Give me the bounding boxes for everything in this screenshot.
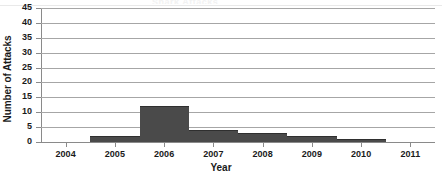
y-tick-label-10: 10 — [0, 107, 32, 116]
bar-2007 — [189, 130, 238, 142]
x-tick-label-2010: 2010 — [338, 149, 384, 159]
bar-2008 — [238, 133, 287, 142]
y-tick-label-0: 0 — [0, 137, 32, 146]
x-tick-label-2007: 2007 — [190, 149, 236, 159]
gridline-20 — [41, 82, 435, 83]
gridline-25 — [41, 68, 435, 69]
gridline-5 — [41, 127, 435, 128]
x-tick-2009 — [312, 142, 313, 147]
gridline-10 — [41, 112, 435, 113]
y-tick-label-20: 20 — [0, 77, 32, 86]
top-divider — [0, 5, 442, 6]
x-tick-label-2004: 2004 — [43, 149, 89, 159]
x-tick-label-2011: 2011 — [387, 149, 433, 159]
x-tick-2004 — [66, 142, 67, 147]
y-tick-label-25: 25 — [0, 63, 32, 72]
chart-figure: Shark Attacks Number of Attacks 45403530… — [0, 0, 442, 178]
y-tick-label-15: 15 — [0, 92, 32, 101]
x-axis-title: Year — [0, 162, 442, 173]
x-tick-label-2005: 2005 — [92, 149, 138, 159]
bar-2006 — [140, 106, 189, 142]
y-tick-label-35: 35 — [0, 33, 32, 42]
y-tick-label-5: 5 — [0, 122, 32, 131]
x-tick-label-2008: 2008 — [240, 149, 286, 159]
plot-area — [41, 8, 435, 142]
x-tick-2005 — [115, 142, 116, 147]
x-tick-2008 — [263, 142, 264, 147]
chart-title-remnant: Shark Attacks — [152, 0, 302, 4]
x-tick-2006 — [164, 142, 165, 147]
x-tick-label-2006: 2006 — [141, 149, 187, 159]
y-tick-label-30: 30 — [0, 48, 32, 57]
x-tick-2010 — [361, 142, 362, 147]
gridline-35 — [41, 38, 435, 39]
x-tick-2011 — [410, 142, 411, 147]
gridline-15 — [41, 97, 435, 98]
gridline-40 — [41, 23, 435, 24]
gridline-30 — [41, 53, 435, 54]
gridline-0 — [41, 142, 435, 143]
gridline-45 — [41, 8, 435, 9]
x-tick-2007 — [213, 142, 214, 147]
x-tick-label-2009: 2009 — [289, 149, 335, 159]
y-tick-label-45: 45 — [0, 3, 32, 12]
y-tick-label-40: 40 — [0, 18, 32, 27]
